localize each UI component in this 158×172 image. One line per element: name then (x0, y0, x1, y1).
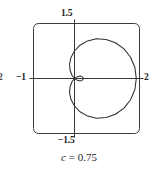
caption-relation: = (66, 151, 78, 163)
x-axis-left-tick-label: −1 (16, 73, 26, 83)
figure-caption: c = 0.75 (0, 152, 158, 163)
polar-limacon-figure: 2 1.5 −1.5 −1 2 c = 0.75 (0, 0, 158, 172)
caption-value: 0.75 (78, 151, 97, 163)
plot-svg (0, 0, 158, 172)
y-axis-bottom-tick-label: −1.5 (58, 136, 75, 146)
y-axis-top-tick-label: 1.5 (61, 9, 72, 19)
clipped-neighbor-label: 2 (0, 73, 3, 83)
x-axis-right-tick-label: 2 (144, 73, 149, 83)
